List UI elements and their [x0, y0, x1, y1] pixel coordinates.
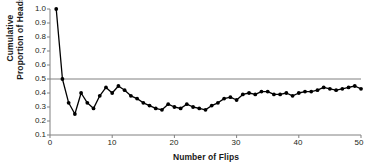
data-point	[303, 90, 307, 94]
data-point	[104, 86, 108, 90]
data-point	[241, 93, 245, 97]
coin-flip-cumulative-proportion-chart: Cumulative Proportion of Heads 1.0 0.9 0…	[0, 0, 365, 167]
data-point	[328, 87, 332, 91]
data-point	[173, 105, 177, 109]
data-point	[235, 98, 239, 102]
data-point	[309, 90, 313, 94]
data-point	[117, 84, 121, 88]
y-tick-label-1.0: 1.0	[24, 5, 46, 13]
data-point	[85, 101, 89, 105]
y-tick-label-0.1: 0.1	[24, 131, 46, 139]
data-point	[322, 86, 326, 90]
y-tick-label-0.9: 0.9	[24, 19, 46, 27]
data-point	[204, 108, 208, 112]
y-tick-label-0.8: 0.8	[24, 33, 46, 41]
x-tick-label-50: 50	[347, 139, 365, 147]
data-point	[141, 101, 145, 105]
data-point	[54, 7, 58, 11]
data-point	[197, 107, 201, 111]
data-point	[359, 87, 363, 91]
data-point	[61, 77, 65, 81]
data-point	[154, 107, 158, 111]
data-point	[92, 107, 96, 111]
data-point	[291, 94, 295, 98]
y-tick-label-0.5: 0.5	[24, 75, 46, 83]
y-tick-label-0.2: 0.2	[24, 117, 46, 125]
data-point	[334, 88, 338, 92]
data-point	[353, 84, 357, 88]
data-point	[123, 88, 127, 92]
data-point	[297, 91, 301, 95]
data-point	[73, 112, 77, 116]
data-point	[210, 104, 214, 108]
data-point	[216, 101, 220, 105]
data-line	[56, 9, 361, 114]
data-point	[148, 104, 152, 108]
data-point	[160, 108, 164, 112]
data-point	[284, 91, 288, 95]
data-point	[191, 105, 195, 109]
data-point	[179, 107, 183, 111]
data-point	[272, 93, 276, 97]
data-point	[253, 93, 257, 97]
axis-spines	[50, 9, 361, 135]
y-tick-label-0.6: 0.6	[24, 61, 46, 69]
x-tick-label-30: 30	[224, 139, 248, 147]
x-tick-label-40: 40	[286, 139, 310, 147]
x-tick-label-20: 20	[162, 139, 186, 147]
data-point	[316, 88, 320, 92]
data-point	[247, 91, 251, 95]
data-point	[129, 94, 133, 98]
data-point	[222, 97, 226, 101]
y-tick-label-0.7: 0.7	[24, 47, 46, 55]
y-tick-label-0.4: 0.4	[24, 89, 46, 97]
data-point	[135, 97, 139, 101]
y-tick-label-0.3: 0.3	[24, 103, 46, 111]
data-point	[228, 95, 232, 99]
data-point	[278, 93, 282, 97]
data-point	[79, 91, 83, 95]
x-axis-label: Number of Flips	[50, 152, 362, 162]
data-point	[185, 102, 189, 106]
data-point	[166, 102, 170, 106]
x-tick-label-10: 10	[100, 139, 124, 147]
data-point	[67, 101, 71, 105]
data-point	[110, 91, 114, 95]
data-point	[260, 90, 264, 94]
data-point	[98, 94, 102, 98]
x-tick-label-0: 0	[38, 139, 62, 147]
data-point	[266, 90, 270, 94]
data-point	[340, 87, 344, 91]
data-point	[347, 86, 351, 90]
data-point-markers	[54, 7, 363, 116]
